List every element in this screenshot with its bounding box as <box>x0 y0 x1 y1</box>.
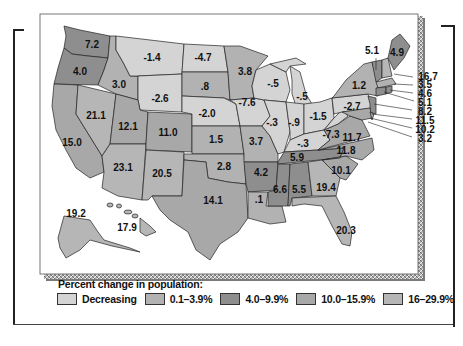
label-nd: -4.7 <box>194 52 212 63</box>
legend-item-low: 0.1–3.9% <box>145 293 213 305</box>
legend-swatch <box>383 293 403 305</box>
label-id: 3.0 <box>112 79 126 90</box>
legend-swatch <box>57 293 77 305</box>
label-ms: 6.6 <box>273 184 287 195</box>
label-ca: 15.0 <box>62 137 82 148</box>
legend-label: 10.0–15.9% <box>321 293 375 305</box>
label-nv: 21.1 <box>86 110 106 121</box>
label-pa: -2.7 <box>343 101 361 112</box>
label-va: 11.7 <box>343 132 362 143</box>
legend-label: Decreasing <box>82 293 137 305</box>
legend-item-mid: 4.0–9.9% <box>220 293 288 305</box>
label-hi: 17.9 <box>117 222 137 233</box>
label-mn: 3.8 <box>238 66 252 77</box>
legend-item-very-high: 16–29.9% <box>383 293 454 305</box>
state-hi-2 <box>117 204 122 208</box>
legend-label: 16–29.9% <box>408 293 454 305</box>
legend: Decreasing 0.1–3.9% 4.0–9.9% 10.0–15.9% … <box>57 293 462 305</box>
label-dc: 3.2 <box>418 133 432 144</box>
label-ar: 4.2 <box>254 167 268 178</box>
label-fl: 20.3 <box>336 225 356 236</box>
label-il: -.3 <box>266 117 278 128</box>
label-ok: 2.8 <box>217 161 231 172</box>
label-al: 5.5 <box>292 184 306 195</box>
state-hi-3 <box>124 210 132 214</box>
legend-label: 0.1–3.9% <box>170 293 213 305</box>
label-mi: -.5 <box>296 91 308 102</box>
label-ny: 1.2 <box>352 80 366 91</box>
state-hi-1 <box>107 203 113 207</box>
label-ga: 19.4 <box>316 182 336 193</box>
label-or: 4.0 <box>73 66 87 77</box>
legend-label: 4.0–9.9% <box>245 293 288 305</box>
legend-title: Percent change in population: <box>58 278 203 290</box>
label-nm: 20.5 <box>152 168 172 179</box>
label-vt: 5.1 <box>365 45 379 56</box>
label-wi: -.5 <box>267 78 279 89</box>
label-wa: 7.2 <box>85 39 99 50</box>
label-sc: 10.1 <box>331 165 351 176</box>
legend-swatch <box>220 293 240 305</box>
label-nc: 11.8 <box>337 145 356 156</box>
label-la: .1 <box>255 194 264 205</box>
card-shadow-right <box>423 18 425 281</box>
label-mt: -1.4 <box>143 52 161 63</box>
label-az: 23.1 <box>113 162 133 173</box>
label-tn: 5.9 <box>290 152 304 163</box>
state-ct <box>376 87 386 96</box>
legend-swatch <box>296 293 316 305</box>
label-me: 4.9 <box>390 47 404 58</box>
label-mo: 3.7 <box>249 136 263 147</box>
label-ne: -2.0 <box>198 108 216 119</box>
label-ks: 1.5 <box>209 134 223 145</box>
label-sd: .8 <box>201 81 210 92</box>
label-ut: 12.1 <box>118 121 138 132</box>
state-hi-4 <box>132 214 138 218</box>
label-in: -.9 <box>288 117 300 128</box>
legend-item-high: 10.0–15.9% <box>296 293 375 305</box>
legend-swatch <box>145 293 165 305</box>
label-wv: -7.3 <box>322 129 340 140</box>
legend-item-decreasing: Decreasing <box>57 293 137 305</box>
label-ak: 19.2 <box>66 208 86 219</box>
card-rope-right <box>418 16 423 279</box>
label-ia: -7.6 <box>238 97 256 108</box>
label-tx: 14.1 <box>203 195 223 206</box>
label-ky: -.3 <box>297 138 309 149</box>
label-wy: -2.6 <box>151 93 169 104</box>
label-oh: -1.5 <box>309 111 327 122</box>
label-co: 11.0 <box>159 127 178 138</box>
